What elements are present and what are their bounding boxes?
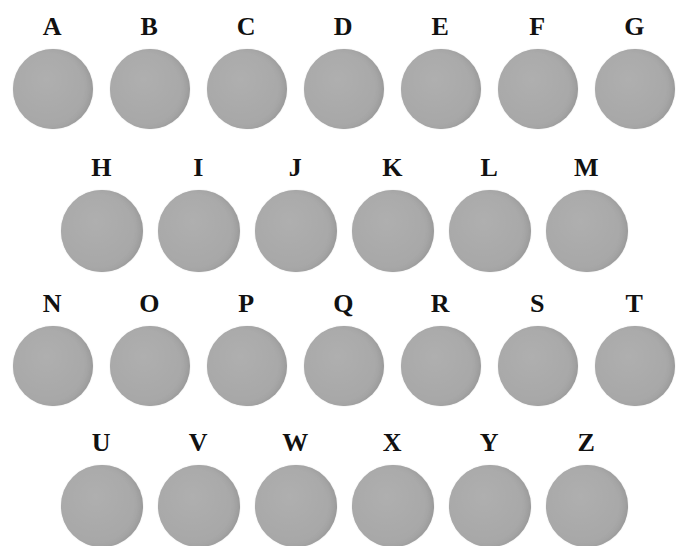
sample-item: W: [247, 431, 344, 546]
sample-letter-label: Z: [538, 431, 635, 455]
sample-letter-label: T: [586, 292, 683, 316]
gray-disc-icon: [61, 465, 143, 546]
sample-item: S: [489, 292, 586, 406]
sample-item: G: [586, 15, 683, 129]
gray-disc-icon: [255, 465, 337, 546]
sample-letter-label: Y: [441, 431, 538, 455]
sample-letter-label: V: [150, 431, 247, 455]
sample-item: C: [198, 15, 295, 129]
sample-item: M: [538, 156, 635, 272]
sample-letter-label: I: [150, 156, 247, 180]
sample-item: P: [198, 292, 295, 406]
sample-letter-label: Q: [295, 292, 392, 316]
sample-item: L: [441, 156, 538, 272]
gray-disc-icon: [595, 49, 675, 129]
sample-letter-label: D: [295, 15, 392, 39]
sample-letter-label: H: [53, 156, 150, 180]
gray-disc-icon: [207, 326, 287, 406]
sample-letter-label: R: [392, 292, 489, 316]
sample-item: R: [392, 292, 489, 406]
sample-letter-label: P: [198, 292, 295, 316]
sample-letter-label: W: [247, 431, 344, 455]
sample-letter-label: J: [247, 156, 344, 180]
sample-letter-label: N: [4, 292, 101, 316]
sample-row-1: ABCDEFG: [4, 15, 690, 129]
sample-letter-label: X: [344, 431, 441, 455]
sample-item: Z: [538, 431, 635, 546]
sample-item: K: [344, 156, 441, 272]
sample-row-2: HIJKLM: [53, 156, 690, 272]
sample-grid-figure: ABCDEFG HIJKLM NOPQRST UVWXYZ: [0, 0, 690, 546]
gray-disc-icon: [449, 190, 531, 272]
sample-item: Y: [441, 431, 538, 546]
gray-disc-icon: [449, 465, 531, 546]
sample-item: E: [392, 15, 489, 129]
gray-disc-icon: [401, 49, 481, 129]
gray-disc-icon: [110, 49, 190, 129]
gray-disc-icon: [595, 326, 675, 406]
sample-letter-label: M: [538, 156, 635, 180]
sample-item: F: [489, 15, 586, 129]
gray-disc-icon: [352, 190, 434, 272]
gray-disc-icon: [13, 326, 93, 406]
gray-disc-icon: [255, 190, 337, 272]
sample-row-3: NOPQRST: [4, 292, 690, 406]
gray-disc-icon: [110, 326, 190, 406]
sample-item: U: [53, 431, 150, 546]
sample-item: J: [247, 156, 344, 272]
gray-disc-icon: [13, 49, 93, 129]
gray-disc-icon: [61, 190, 143, 272]
gray-disc-icon: [304, 49, 384, 129]
gray-disc-icon: [546, 190, 628, 272]
gray-disc-icon: [498, 326, 578, 406]
sample-letter-label: S: [489, 292, 586, 316]
sample-letter-label: F: [489, 15, 586, 39]
sample-item: H: [53, 156, 150, 272]
sample-letter-label: B: [101, 15, 198, 39]
sample-letter-label: E: [392, 15, 489, 39]
sample-item: A: [4, 15, 101, 129]
gray-disc-icon: [546, 465, 628, 546]
sample-item: I: [150, 156, 247, 272]
sample-letter-label: O: [101, 292, 198, 316]
sample-item: X: [344, 431, 441, 546]
sample-item: T: [586, 292, 683, 406]
sample-item: V: [150, 431, 247, 546]
sample-letter-label: A: [4, 15, 101, 39]
sample-letter-label: K: [344, 156, 441, 180]
sample-letter-label: G: [586, 15, 683, 39]
sample-row-4: UVWXYZ: [53, 431, 690, 546]
gray-disc-icon: [304, 326, 384, 406]
sample-letter-label: C: [198, 15, 295, 39]
gray-disc-icon: [158, 190, 240, 272]
gray-disc-icon: [158, 465, 240, 546]
sample-item: Q: [295, 292, 392, 406]
sample-letter-label: U: [53, 431, 150, 455]
sample-item: N: [4, 292, 101, 406]
sample-item: B: [101, 15, 198, 129]
sample-item: D: [295, 15, 392, 129]
gray-disc-icon: [352, 465, 434, 546]
gray-disc-icon: [498, 49, 578, 129]
gray-disc-icon: [401, 326, 481, 406]
sample-letter-label: L: [441, 156, 538, 180]
gray-disc-icon: [207, 49, 287, 129]
sample-item: O: [101, 292, 198, 406]
